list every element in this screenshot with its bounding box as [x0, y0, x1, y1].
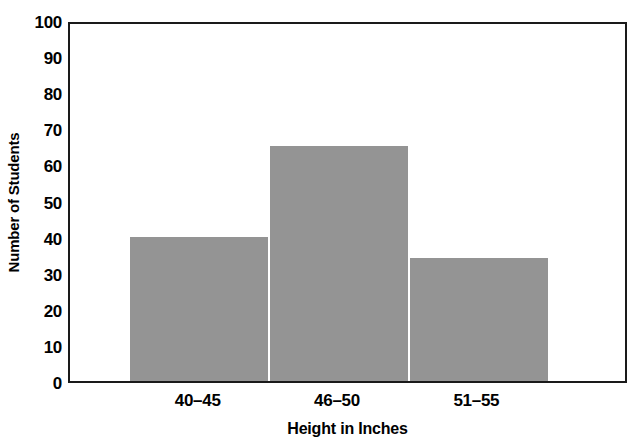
- x-axis-tick-label: 51–55: [453, 392, 499, 411]
- y-axis-tick-label: 60: [16, 158, 62, 175]
- plot-area: [68, 22, 627, 383]
- x-axis-tick-label: 40–45: [175, 392, 221, 411]
- bar: [410, 258, 548, 381]
- y-axis-tick-label: 70: [16, 122, 62, 139]
- y-axis-tick-label: 80: [16, 86, 62, 103]
- bars-container: [70, 24, 625, 381]
- y-axis-tick-label: 50: [16, 194, 62, 211]
- x-axis-title: Height in Inches: [68, 420, 627, 438]
- y-axis-tick-labels: 0102030405060708090100: [12, 0, 62, 445]
- y-axis-tick-label: 40: [16, 230, 62, 247]
- bar: [270, 146, 407, 381]
- y-axis-tick-label: 10: [16, 338, 62, 355]
- x-axis-tick-label: 46–50: [314, 392, 360, 411]
- histogram-figure: Number of Students 010203040506070809010…: [0, 0, 642, 445]
- y-axis-tick-label: 90: [16, 50, 62, 67]
- y-axis-tick-label: 20: [16, 302, 62, 319]
- x-axis-tick-labels: 40–4546–5051–55: [68, 392, 627, 416]
- y-axis-tick-label: 0: [16, 375, 62, 392]
- y-axis-tick-label: 100: [16, 14, 62, 31]
- y-axis-tick-label: 30: [16, 266, 62, 283]
- bar: [130, 237, 268, 381]
